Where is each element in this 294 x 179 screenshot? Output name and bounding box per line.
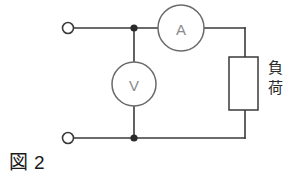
junction-top	[130, 24, 137, 31]
load-resistor	[229, 57, 258, 110]
junction-bottom	[130, 134, 137, 141]
ammeter-label: A	[176, 21, 186, 38]
voltmeter-label: V	[129, 77, 139, 94]
input-terminal-top	[63, 23, 74, 34]
caption-kanji: 図	[9, 151, 28, 173]
caption-number: 2	[34, 152, 45, 173]
load-label: 負 荷	[263, 58, 287, 98]
input-terminal-bottom	[63, 133, 74, 144]
load-label-char-2: 荷	[263, 78, 287, 98]
circuit-figure: A V 負 荷 図2	[0, 0, 294, 179]
load-label-char-1: 負	[263, 58, 287, 78]
figure-caption: 図2	[9, 147, 45, 174]
